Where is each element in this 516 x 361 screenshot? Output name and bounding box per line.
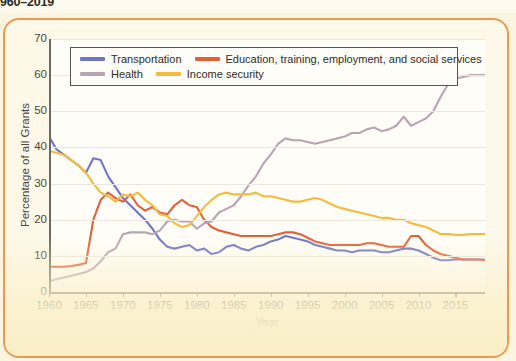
x-axis-tick	[271, 292, 272, 297]
x-axis-tick	[123, 292, 124, 297]
legend-label: Transportation	[111, 53, 182, 65]
legend-entry-income_security[interactable]: Income security	[156, 68, 264, 80]
x-axis-tick-label: 1990	[258, 299, 284, 311]
y-axis-tick-label: 70	[7, 32, 47, 44]
x-axis-title: Year	[255, 316, 278, 328]
x-axis-tick	[160, 292, 161, 297]
x-axis-tick-label: 2015	[443, 299, 469, 311]
x-axis-tick	[308, 292, 309, 297]
legend-entry-transportation[interactable]: Transportation	[80, 53, 182, 65]
legend-label: Income security	[187, 68, 264, 80]
legend-swatch-icon	[195, 57, 220, 60]
y-axis-tick-label: 60	[7, 68, 47, 80]
y-axis-line	[49, 39, 51, 292]
x-axis-tick	[382, 292, 383, 297]
legend-swatch-icon	[156, 72, 181, 75]
y-axis-title: Percentage of all Grants	[19, 103, 31, 227]
plot-wrapper: 010203040506070 196019651970197519801985…	[49, 39, 485, 307]
legend-entry-education[interactable]: Education, training, employment, and soc…	[195, 53, 482, 65]
chart-title: 960–2019	[0, 0, 54, 9]
x-axis-tick-label: 1970	[110, 299, 136, 311]
gridline	[50, 111, 485, 112]
x-axis-tick-label: 1980	[184, 299, 210, 311]
legend-label: Education, training, employment, and soc…	[226, 53, 482, 65]
series-line	[49, 151, 485, 235]
legend-swatch-icon	[80, 72, 105, 75]
gridline	[50, 147, 485, 148]
legend-label: Health	[111, 68, 143, 80]
title-strip: 960–2019	[0, 0, 516, 13]
legend-swatch-icon	[80, 57, 105, 60]
x-axis-tick	[455, 292, 456, 297]
gridline	[50, 220, 485, 221]
x-axis-tick	[419, 292, 420, 297]
x-axis-tick-label: 1985	[221, 299, 247, 311]
y-axis-tick-label: 10	[7, 249, 47, 261]
chart-legend: TransportationEducation, training, emplo…	[70, 47, 458, 86]
x-axis-tick	[86, 292, 87, 297]
legend-row: TransportationEducation, training, emplo…	[80, 53, 449, 65]
x-axis-tick	[49, 292, 50, 297]
x-axis-tick	[234, 292, 235, 297]
y-axis-tick-label: 0	[7, 285, 47, 297]
x-axis-tick	[345, 292, 346, 297]
x-axis-tick-label: 1965	[73, 299, 99, 311]
legend-entry-health[interactable]: Health	[80, 68, 143, 80]
x-axis-tick-label: 1975	[147, 299, 173, 311]
figure-root: 960–2019 010203040506070 196019651970197…	[0, 0, 516, 361]
x-axis-tick-label: 1960	[36, 299, 62, 311]
x-axis-tick-label: 2010	[406, 299, 432, 311]
chart-card: 010203040506070 196019651970197519801985…	[3, 18, 509, 358]
x-axis-tick	[197, 292, 198, 297]
gridline	[50, 256, 485, 257]
x-axis-tick-label: 2005	[369, 299, 395, 311]
x-axis-tick-label: 1995	[295, 299, 321, 311]
gridline	[50, 184, 485, 185]
legend-row: HealthIncome security	[80, 68, 449, 80]
x-axis-tick-label: 2000	[332, 299, 358, 311]
gridline	[50, 39, 485, 40]
